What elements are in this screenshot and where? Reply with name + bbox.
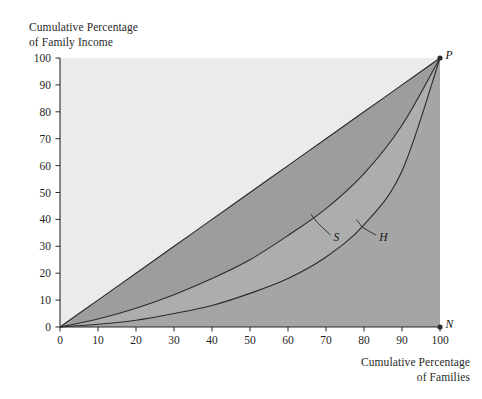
lorenz-curve-figure: Cumulative Percentage of Family Income C… xyxy=(0,0,482,399)
point-p-label: P xyxy=(445,49,453,61)
x-tick-label: 80 xyxy=(358,334,370,346)
x-tick-label: 100 xyxy=(431,334,449,346)
y-tick-label: 30 xyxy=(40,240,52,252)
curve-s-label: S xyxy=(334,231,340,243)
x-axis-title: Cumulative Percentage of Families xyxy=(361,355,470,384)
x-tick-label: 10 xyxy=(92,334,104,346)
y-tick-label: 0 xyxy=(45,321,51,333)
y-tick-label: 10 xyxy=(40,294,52,306)
point-n-label: N xyxy=(445,318,455,330)
y-tick-label: 80 xyxy=(40,106,52,118)
x-tick-label: 20 xyxy=(130,334,142,346)
y-tick-label: 70 xyxy=(40,133,52,145)
y-tick-label: 90 xyxy=(40,79,52,91)
x-tick-label: 60 xyxy=(282,334,294,346)
plot-canvas: 0102030405060708090100010203040506070809… xyxy=(0,0,482,399)
x-tick-label: 40 xyxy=(206,334,218,346)
x-tick-label: 30 xyxy=(168,334,180,346)
y-tick-label: 60 xyxy=(40,160,52,172)
x-tick-label: 70 xyxy=(320,334,332,346)
x-tick-label: 90 xyxy=(396,334,408,346)
x-tick-label: 0 xyxy=(57,334,63,346)
point-n-dot xyxy=(437,324,442,329)
curve-h-label: H xyxy=(378,231,388,243)
y-tick-label: 100 xyxy=(34,52,52,64)
y-tick-label: 50 xyxy=(40,187,52,199)
x-tick-label: 50 xyxy=(244,334,256,346)
point-p-dot xyxy=(437,55,442,60)
y-axis-title: Cumulative Percentage of Family Income xyxy=(29,20,138,49)
y-tick-label: 20 xyxy=(40,267,52,279)
y-tick-label: 40 xyxy=(40,213,52,225)
